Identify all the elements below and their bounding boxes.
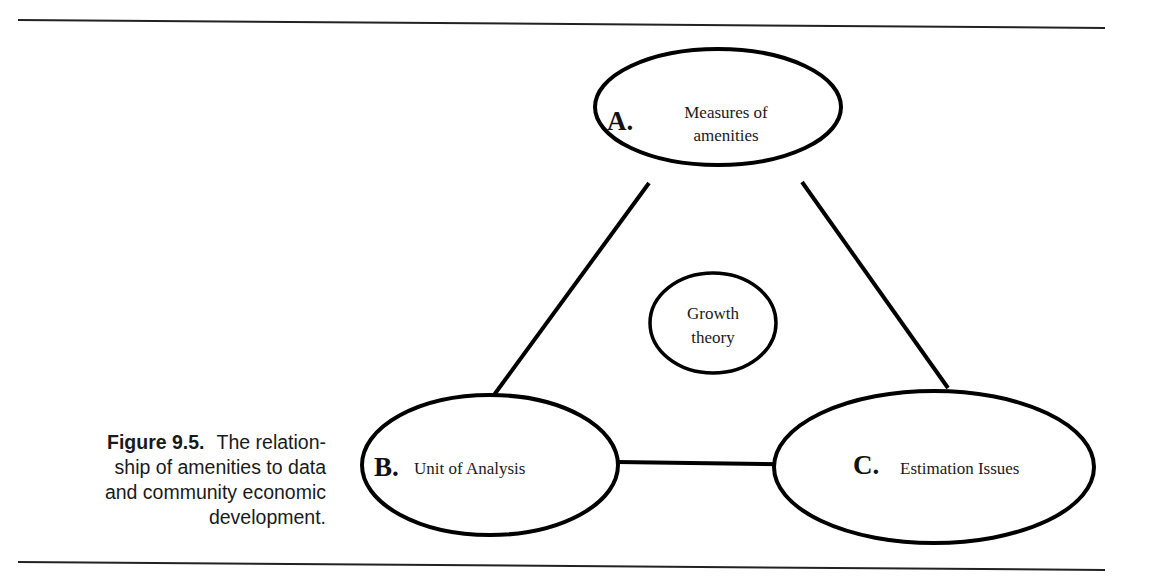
node-a-label-line2: amenities — [693, 126, 758, 145]
bottom-rule — [18, 562, 1105, 570]
figure-caption: Figure 9.5.The relation- ship of ameniti… — [20, 430, 326, 530]
node-c-estimation-issues: C. Estimation Issues — [774, 391, 1094, 543]
caption-line-1: The relation- — [217, 431, 326, 453]
node-growth-theory: Growth theory — [650, 273, 776, 373]
node-b-label: Unit of Analysis — [414, 459, 525, 478]
top-rule — [18, 20, 1105, 28]
edge-a-b — [494, 183, 649, 395]
node-c-letter: C. — [853, 450, 879, 480]
caption-line-4: development. — [20, 505, 326, 530]
node-center-label-line2: theory — [691, 328, 735, 347]
caption-line-2: ship of amenities to data — [20, 455, 326, 480]
node-center-label-line1: Growth — [687, 304, 739, 323]
node-a-measures-of-amenities: A. Measures of amenities — [595, 49, 841, 165]
edge-a-c — [802, 182, 948, 388]
node-a-letter: A. — [607, 106, 633, 136]
node-b-letter: B. — [374, 452, 399, 482]
figure-label: Figure 9.5. — [107, 431, 205, 453]
node-c-label: Estimation Issues — [900, 459, 1019, 478]
node-a-label-line1: Measures of — [684, 103, 768, 122]
caption-line-3: and community economic — [20, 480, 326, 505]
node-b-unit-of-analysis: B. Unit of Analysis — [362, 395, 618, 535]
